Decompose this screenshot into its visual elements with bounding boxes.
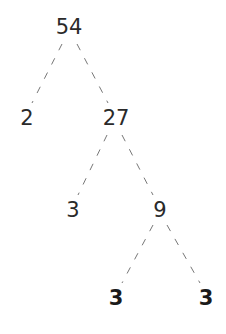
tree-edges	[0, 0, 226, 334]
edge-9-3-left	[122, 225, 153, 283]
edge-27-9	[122, 135, 153, 195]
node-27: 27	[103, 108, 130, 129]
edge-9-3-right	[167, 225, 200, 283]
node-2: 2	[20, 108, 33, 129]
edge-54-27	[77, 44, 108, 103]
node-9: 9	[153, 200, 166, 221]
edge-27-3	[78, 135, 107, 195]
node-3-prime-left: 3	[109, 288, 124, 309]
factor-tree-diagram: 54 2 27 3 9 3 3	[0, 0, 226, 334]
node-3-prime-right: 3	[199, 288, 214, 309]
node-54: 54	[56, 17, 83, 38]
node-3-left: 3	[66, 200, 79, 221]
edge-54-2	[32, 44, 62, 103]
